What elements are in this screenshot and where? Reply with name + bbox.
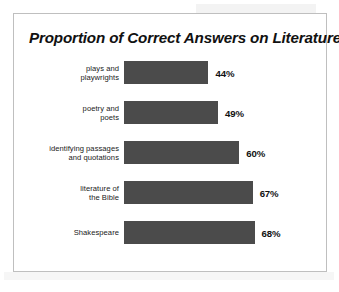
bar-track: 60% bbox=[124, 141, 328, 164]
bar-category-label: poetry andpoets bbox=[14, 103, 119, 121]
chart-frame: Proportion of Correct Answers on Literat… bbox=[13, 13, 327, 272]
bar-track: 44% bbox=[124, 61, 328, 84]
bar-value-label: 49% bbox=[225, 107, 244, 118]
bar-track: 49% bbox=[124, 101, 328, 124]
bar-row: plays andplaywrights44% bbox=[14, 61, 328, 84]
bar-category-label-line: the Bible bbox=[14, 193, 119, 202]
scan-artifact bbox=[4, 272, 334, 280]
bar-fill bbox=[124, 101, 218, 124]
bar-category-label-line: identifying passages bbox=[14, 143, 119, 152]
bar-category-label-line: poetry and bbox=[14, 103, 119, 112]
bar-fill bbox=[124, 141, 239, 164]
bar-category-label-line: literature of bbox=[14, 183, 119, 192]
bar-category-label-line: playwrights bbox=[14, 73, 119, 82]
bar-category-label-line: Shakespeare bbox=[14, 228, 119, 237]
bar-track: 68% bbox=[124, 221, 328, 244]
bar-category-label-line: and quotations bbox=[14, 153, 119, 162]
bar-row: Shakespeare68% bbox=[14, 221, 328, 244]
bar-row: poetry andpoets49% bbox=[14, 101, 328, 124]
bar-category-label: Shakespeare bbox=[14, 228, 119, 237]
bar-value-label: 68% bbox=[262, 227, 281, 238]
bar-category-label: literature ofthe Bible bbox=[14, 183, 119, 201]
bar-fill bbox=[124, 61, 208, 84]
bar-category-label-line: plays and bbox=[14, 63, 119, 72]
bar-value-label: 60% bbox=[246, 147, 265, 158]
bar-category-label: plays andplaywrights bbox=[14, 63, 119, 81]
bar-row: identifying passagesand quotations60% bbox=[14, 141, 328, 164]
bar-track: 67% bbox=[124, 181, 328, 204]
chart-title: Proportion of Correct Answers on Literat… bbox=[29, 29, 313, 47]
bar-chart-plot-area: plays andplaywrights44%poetry andpoets49… bbox=[14, 60, 328, 268]
bar-fill bbox=[124, 221, 255, 244]
bar-category-label-line: poets bbox=[14, 113, 119, 122]
bar-category-label: identifying passagesand quotations bbox=[14, 143, 119, 161]
bar-value-label: 44% bbox=[215, 67, 234, 78]
bar-value-label: 67% bbox=[260, 187, 279, 198]
bar-row: literature ofthe Bible67% bbox=[14, 181, 328, 204]
scanned-page-surface: Proportion of Correct Answers on Literat… bbox=[0, 0, 339, 292]
bar-fill bbox=[124, 181, 253, 204]
